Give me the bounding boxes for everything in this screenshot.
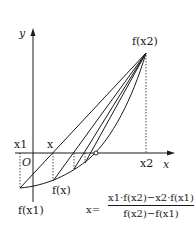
formula-denominator: f(x2)−f(x1) <box>108 206 194 219</box>
root-marker <box>94 151 98 155</box>
formula-fraction: x1·f(x2)−x2·f(x1) f(x2)−f(x1) <box>108 192 194 219</box>
x1-axis-label: x1 <box>14 138 27 151</box>
secant-line-2 <box>53 53 146 181</box>
y-axis-label: y <box>18 27 26 40</box>
formula-lhs: x= <box>86 204 100 215</box>
formula-numerator: x1·f(x2)−x2·f(x1) <box>108 192 194 206</box>
f-x1-label: f(x1) <box>18 204 44 217</box>
secant-line-1 <box>20 53 146 188</box>
x-axis-point-label: x <box>47 138 54 151</box>
f-x-label: f(x) <box>52 184 71 197</box>
x-axis-arrow-icon <box>167 151 175 156</box>
f-x2-label: f(x2) <box>132 35 158 48</box>
secant-line-3 <box>74 53 146 169</box>
x-axis-label: x <box>163 158 170 171</box>
x2-axis-label: x2 <box>140 157 153 170</box>
secant-formula: x= x1·f(x2)−x2·f(x1) f(x2)−f(x1) <box>86 192 194 232</box>
y-axis-arrow-icon <box>31 28 36 36</box>
origin-label: O <box>22 156 31 169</box>
